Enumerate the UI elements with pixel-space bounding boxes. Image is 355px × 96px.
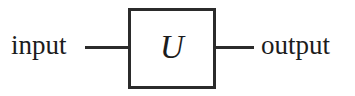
output-label: output xyxy=(261,32,330,59)
output-wire xyxy=(214,46,254,49)
gate-symbol-label: U xyxy=(131,11,213,86)
unitary-gate-diagram: input U output xyxy=(0,0,355,96)
input-label: input xyxy=(11,32,67,59)
input-wire xyxy=(85,46,130,49)
unitary-gate-box: U xyxy=(128,8,216,89)
